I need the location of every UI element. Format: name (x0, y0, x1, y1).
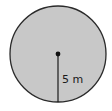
circle-diagram: 5 m (0, 0, 112, 111)
radius-label: 5 m (62, 73, 83, 86)
center-point (56, 52, 61, 57)
